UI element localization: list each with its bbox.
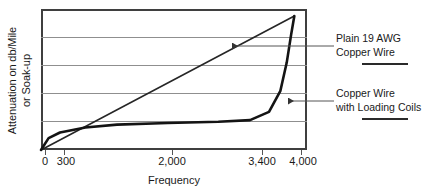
annotation-underline-rule <box>362 118 408 120</box>
y-axis-label-text: Attenuation on db/Mile or Soak-up <box>7 26 34 133</box>
annotation-loading-coils-line-1: Copper Wire <box>336 87 395 99</box>
plot-area <box>41 9 307 150</box>
annotation-loading-coils: Copper Wire with Loading Coils <box>336 87 421 120</box>
annotation-loading-coils-line-2: with Loading Coils <box>336 101 421 113</box>
annotation-plain-wire-line-2: Copper Wire <box>336 46 395 58</box>
annotation-plain-wire: Plain 19 AWG Copper Wire <box>336 32 408 65</box>
x-tick-label-0: 0 <box>42 155 48 167</box>
x-axis-label: Frequency <box>41 174 307 186</box>
y-axis-label-line-1: Attenuation on db/Mile <box>7 26 21 133</box>
annotation-plain-wire-line-1: Plain 19 AWG <box>336 32 401 44</box>
attenuation-vs-frequency-chart: Attenuation on db/Mile or Soak-up 0 300 … <box>0 0 442 196</box>
x-tick-label-4000: 4,000 <box>289 155 317 167</box>
annotation-underline-rule <box>362 63 408 65</box>
series-curves <box>41 9 307 150</box>
x-tick-label-2000: 2,000 <box>158 155 186 167</box>
x-tick-label-300: 300 <box>57 155 75 167</box>
x-tick-label-3400: 3,400 <box>248 155 276 167</box>
y-axis-label: Attenuation on db/Mile or Soak-up <box>0 0 40 160</box>
y-axis-label-line-2: or Soak-up <box>20 26 34 133</box>
